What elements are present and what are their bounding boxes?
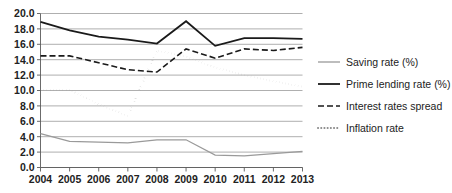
x-tick-label: 2012 [262,173,286,185]
legend-label-saving-rate: Saving rate (%) [346,56,418,68]
y-tick-label: 10.0 [14,84,35,96]
y-tick-label: 20.0 [14,7,35,19]
x-tick-label: 2009 [174,173,198,185]
chart-y-tick-labels: 0.02.04.06.08.010.012.014.016.018.020.0 [14,7,40,173]
y-tick-label: 4.0 [20,131,35,143]
x-tick-label: 2005 [58,173,82,185]
x-tick-label: 2011 [233,173,256,185]
x-tick-label: 2010 [203,173,227,185]
y-tick-label: 0.0 [20,161,35,173]
x-tick-label: 2008 [145,173,169,185]
chart-x-tick-labels: 2004200520062007200820092010201120122013 [29,168,315,185]
y-tick-label: 8.0 [20,100,35,112]
x-tick-label: 2004 [29,173,53,185]
y-tick-label: 14.0 [14,54,35,66]
legend-label-prime-lending-rate: Prime lending rate (%) [346,78,450,90]
y-tick-label: 6.0 [20,115,35,127]
chart-series-group [41,21,303,156]
x-tick-label: 2013 [291,173,315,185]
y-tick-label: 18.0 [14,23,35,35]
x-tick-label: 2007 [116,173,140,185]
series-line-prime-lending-rate [41,21,303,46]
legend-label-inflation-rate: Inflation rate [346,122,404,134]
chart-legend: Saving rate (%)Prime lending rate (%)Int… [318,56,450,134]
y-tick-label: 2.0 [20,146,35,158]
legend-label-interest-rates-spread: Interest rates spread [346,100,442,112]
x-tick-label: 2006 [87,173,111,185]
chart-gridlines [41,14,303,168]
y-tick-label: 16.0 [14,38,35,50]
y-tick-label: 12.0 [14,69,35,81]
line-chart: 0.02.04.06.08.010.012.014.016.018.020.0 … [0,0,452,193]
